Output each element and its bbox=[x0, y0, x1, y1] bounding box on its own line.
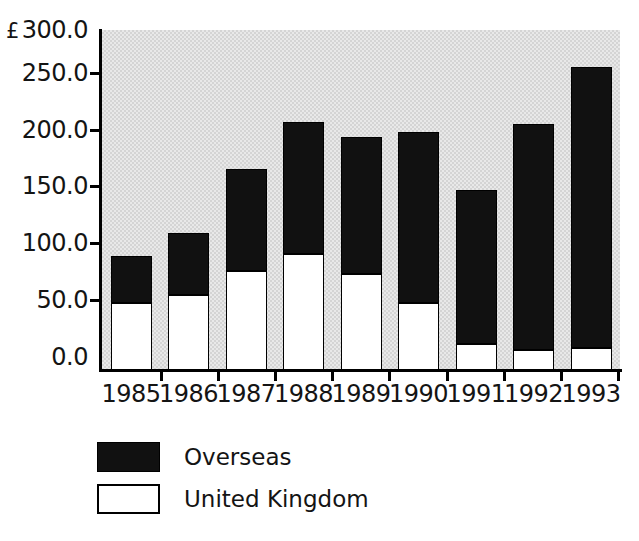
x-tick-label-1991: 1991 bbox=[445, 381, 507, 407]
x-tick-label-1989: 1989 bbox=[330, 381, 392, 407]
x-tick-label-1987: 1987 bbox=[215, 381, 277, 407]
y-tick-mark-100 bbox=[90, 242, 102, 245]
x-tick-label-1986: 1986 bbox=[158, 381, 220, 407]
bar-segment-overseas-1992[interactable] bbox=[513, 124, 554, 350]
legend-label-united-kingdom: United Kingdom bbox=[184, 487, 369, 512]
bar-group-1986[interactable] bbox=[168, 30, 209, 370]
y-tick-label-150: 150.0 bbox=[22, 174, 88, 198]
chart-legend: Overseas United Kingdom bbox=[97, 436, 517, 520]
y-tick-label-300: £300.0 bbox=[6, 18, 88, 43]
x-tick-label-1993: 1993 bbox=[560, 381, 622, 407]
x-axis-tick-labels: 198519861987198819891990199119921993 bbox=[102, 381, 620, 415]
bars-layer bbox=[102, 30, 620, 370]
bar-segment-overseas-1988[interactable] bbox=[283, 122, 324, 255]
y-tick-label-50: 50.0 bbox=[37, 288, 88, 312]
y-axis-tick-labels: £300.0 250.0 200.0 150.0 100.0 50.0 0.0 bbox=[0, 0, 88, 400]
bar-group-1987[interactable] bbox=[226, 30, 267, 370]
bar-segment-united-kingdom-1988[interactable] bbox=[283, 254, 324, 370]
legend-swatch-united-kingdom-icon bbox=[97, 484, 160, 514]
bar-segment-united-kingdom-1992[interactable] bbox=[513, 350, 554, 370]
bar-segment-united-kingdom-1990[interactable] bbox=[398, 303, 439, 370]
y-tick-mark-50 bbox=[90, 299, 102, 302]
bar-segment-united-kingdom-1987[interactable] bbox=[226, 271, 267, 370]
currency-symbol: £ bbox=[6, 19, 19, 43]
legend-item-united-kingdom: United Kingdom bbox=[97, 478, 517, 520]
x-tick-label-1988: 1988 bbox=[273, 381, 335, 407]
stacked-bar-chart: £300.0 250.0 200.0 150.0 100.0 50.0 0.0 … bbox=[0, 0, 639, 541]
bar-group-1985[interactable] bbox=[111, 30, 152, 370]
bar-group-1992[interactable] bbox=[513, 30, 554, 370]
bar-group-1993[interactable] bbox=[571, 30, 612, 370]
y-tick-label-200: 200.0 bbox=[22, 118, 88, 142]
bar-segment-overseas-1986[interactable] bbox=[168, 233, 209, 295]
bar-segment-overseas-1990[interactable] bbox=[398, 132, 439, 303]
bar-segment-overseas-1989[interactable] bbox=[341, 137, 382, 274]
bar-segment-overseas-1993[interactable] bbox=[571, 67, 612, 348]
y-tick-value-300: 300.0 bbox=[22, 16, 88, 44]
bar-segment-united-kingdom-1986[interactable] bbox=[168, 295, 209, 370]
x-tick-label-1992: 1992 bbox=[503, 381, 565, 407]
bar-group-1991[interactable] bbox=[456, 30, 497, 370]
y-tick-mark-250 bbox=[90, 72, 102, 75]
legend-label-overseas: Overseas bbox=[184, 445, 292, 470]
y-tick-label-100: 100.0 bbox=[22, 231, 88, 255]
y-tick-label-250: 250.0 bbox=[22, 61, 88, 85]
legend-item-overseas: Overseas bbox=[97, 436, 517, 478]
y-tick-mark-200 bbox=[90, 129, 102, 132]
legend-swatch-overseas-icon bbox=[97, 442, 160, 472]
bar-segment-united-kingdom-1985[interactable] bbox=[111, 303, 152, 370]
bar-group-1990[interactable] bbox=[398, 30, 439, 370]
bar-group-1988[interactable] bbox=[283, 30, 324, 370]
x-tick-label-1990: 1990 bbox=[388, 381, 450, 407]
bar-group-1989[interactable] bbox=[341, 30, 382, 370]
bar-segment-united-kingdom-1989[interactable] bbox=[341, 274, 382, 370]
bar-segment-overseas-1987[interactable] bbox=[226, 169, 267, 271]
bar-segment-united-kingdom-1991[interactable] bbox=[456, 344, 497, 370]
x-tick-label-1985: 1985 bbox=[100, 381, 162, 407]
y-tick-mark-150 bbox=[90, 185, 102, 188]
bar-segment-united-kingdom-1993[interactable] bbox=[571, 348, 612, 370]
bar-segment-overseas-1985[interactable] bbox=[111, 256, 152, 304]
y-tick-label-0: 0.0 bbox=[51, 345, 88, 369]
bar-segment-overseas-1991[interactable] bbox=[456, 190, 497, 344]
